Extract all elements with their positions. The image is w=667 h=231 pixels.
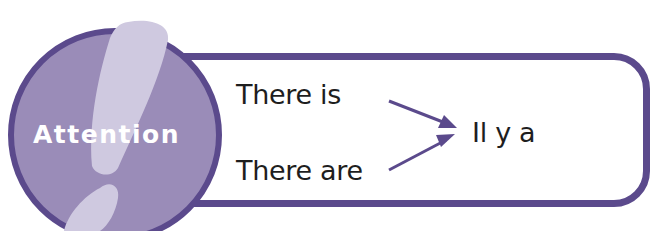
arrow-icon — [389, 101, 457, 170]
attention-callout: Attention There is There are Il y a — [0, 0, 667, 231]
arrows — [0, 0, 667, 231]
